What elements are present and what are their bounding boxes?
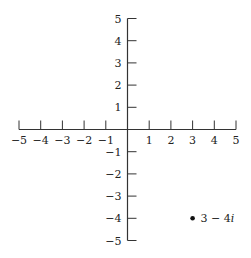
y-tick-label: −2 [105, 168, 121, 181]
complex-plane-plot: −5−4−3−2−112345 54321−1−2−3−4−5 3 − 4i [0, 0, 251, 258]
real-axis: −5−4−3−2−112345 [11, 121, 240, 147]
x-tick-label: −4 [33, 134, 49, 147]
x-tick-label: −1 [98, 134, 114, 147]
x-tick-label: 4 [211, 134, 218, 147]
y-tick-label: 1 [115, 101, 122, 114]
x-tick-label: −2 [76, 134, 92, 147]
x-tick-label: −3 [54, 134, 70, 147]
x-tick-label: −5 [11, 134, 27, 147]
y-tick-label: −1 [105, 146, 121, 159]
x-tick-label: 1 [146, 134, 153, 147]
data-points: 3 − 4i [190, 212, 234, 225]
y-tick-label: −5 [105, 235, 121, 248]
point-label: 3 − 4i [201, 212, 235, 225]
y-tick-label: 2 [115, 79, 122, 92]
y-tick-label: 3 [115, 57, 122, 70]
point-marker [190, 216, 195, 221]
y-tick-label: 4 [115, 35, 122, 48]
x-tick-label: 3 [189, 134, 196, 147]
x-tick-label: 2 [167, 134, 174, 147]
y-tick-label: −3 [105, 190, 121, 203]
x-tick-label: 5 [233, 134, 240, 147]
y-tick-label: −4 [105, 212, 121, 225]
y-tick-label: 5 [115, 13, 122, 26]
